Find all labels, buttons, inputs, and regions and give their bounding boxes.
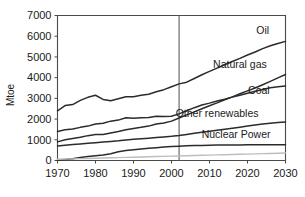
y-tick-label: 1000 <box>27 134 51 146</box>
x-tick-label: 2010 <box>197 167 221 179</box>
y-tick-label: 0 <box>45 154 51 166</box>
x-tick-label: 2020 <box>235 167 259 179</box>
y-tick-label: 5000 <box>27 51 51 63</box>
y-axis-title: Mtoe <box>5 83 16 106</box>
x-tick-label: 1980 <box>83 167 107 179</box>
series-label-other-renewables: Other renewables <box>176 107 259 119</box>
x-tick-label: 2030 <box>273 167 297 179</box>
y-tick-label: 6000 <box>27 30 51 42</box>
y-axis-title-label: Mtoe <box>5 83 16 106</box>
x-axis-tick-labels: 1970198019902000201020202030 <box>45 167 297 179</box>
x-tick-label: 2000 <box>159 167 183 179</box>
y-tick-label: 4000 <box>27 71 51 83</box>
series-label-nuclear-power: Nuclear Power <box>202 128 271 140</box>
y-tick-label: 7000 <box>27 9 51 21</box>
series-label-oil: Oil <box>256 24 269 36</box>
y-tick-label: 2000 <box>27 113 51 125</box>
x-tick-label: 1990 <box>121 167 145 179</box>
series-line-oil <box>58 41 286 110</box>
series-label-coal: Coal <box>248 84 270 96</box>
series-label-natural-gas: Natural gas <box>213 58 267 70</box>
y-tick-label: 3000 <box>27 92 51 104</box>
x-tick-label: 1970 <box>45 167 69 179</box>
series-labels: OilNatural gasCoalOther renewablesNuclea… <box>176 24 271 140</box>
energy-demand-line-chart: 01000200030004000500060007000 1970198019… <box>0 0 305 197</box>
y-axis-tick-labels: 01000200030004000500060007000 <box>27 9 51 166</box>
chart-container: 01000200030004000500060007000 1970198019… <box>0 0 305 197</box>
